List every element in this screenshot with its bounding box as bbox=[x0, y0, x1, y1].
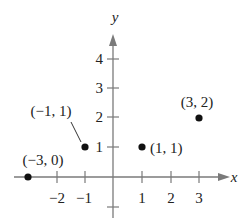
coordinate-plane: −2 −1 1 2 3 4 3 2 1 x y (−3, 0) (−1, 1) … bbox=[0, 0, 242, 221]
point-label: (3, 2) bbox=[181, 94, 214, 111]
point-label: (1, 1) bbox=[150, 140, 183, 157]
y-tick-label: 2 bbox=[96, 109, 104, 125]
point-neg3-0 bbox=[24, 173, 31, 180]
point-neg1-1 bbox=[81, 143, 88, 150]
plot-svg: −2 −1 1 2 3 4 3 2 1 x y (−3, 0) (−1, 1) … bbox=[0, 0, 242, 221]
y-axis-arrow-icon bbox=[109, 34, 117, 46]
x-tick-label: −2 bbox=[49, 190, 65, 206]
point-label: (−1, 1) bbox=[31, 103, 72, 120]
point-1-1 bbox=[138, 143, 145, 150]
x-axis-arrow-icon bbox=[218, 173, 230, 181]
x-tick-label: 1 bbox=[138, 190, 146, 206]
point-label: (−3, 0) bbox=[23, 152, 64, 169]
y-tick-label: 3 bbox=[96, 80, 104, 96]
y-tick-label: 4 bbox=[96, 51, 104, 67]
x-tick-label: −1 bbox=[76, 190, 92, 206]
point-3-2 bbox=[195, 114, 202, 121]
leader-line bbox=[71, 122, 81, 142]
y-axis-label: y bbox=[110, 9, 119, 25]
x-axis-label: x bbox=[230, 169, 238, 185]
x-tick-label: 2 bbox=[167, 190, 175, 206]
y-tick-label: 1 bbox=[96, 139, 104, 155]
x-tick-label: 3 bbox=[195, 190, 203, 206]
